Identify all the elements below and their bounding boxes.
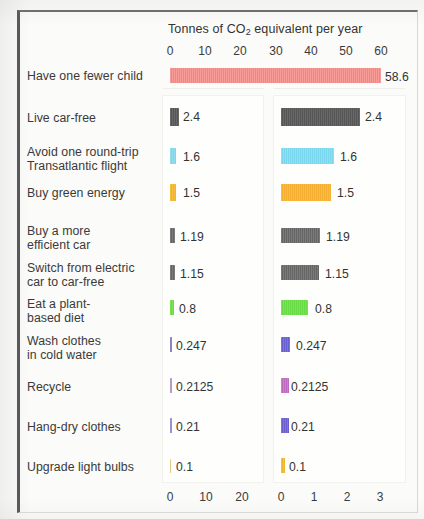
row-label-avoid-transatlantic-flight: Avoid one round-trip Transatlantic fligh… <box>27 146 159 173</box>
bar-wash-clothes-left-panel <box>170 337 172 352</box>
main-axis-tick-10: 10 <box>198 44 211 58</box>
axis-title-post: equivalent per year <box>251 22 363 36</box>
right-panel-tick-1: 1 <box>311 490 318 504</box>
panel-connector-right <box>274 88 405 89</box>
bar-value-avoid-flight-left: 1.6 <box>183 150 200 164</box>
main-axis-tick-20: 20 <box>233 44 246 58</box>
bar-recycle-right-panel <box>281 378 289 393</box>
bar-buy-efficient-car-left-panel <box>170 228 175 243</box>
bar-value-hang-dry-right: 0.21 <box>291 420 315 434</box>
bar-value-wash-clothes-left: 0.247 <box>176 339 207 353</box>
bar-value-eat-plant-based-left: 0.8 <box>179 302 196 316</box>
bar-upgrade-light-bulbs-right-panel <box>281 458 285 473</box>
right-panel-tick-2: 2 <box>344 490 351 504</box>
bar-hang-dry-clothes-right-panel <box>281 418 289 433</box>
panel-connector-left <box>163 88 264 89</box>
right-panel-tick-0: 0 <box>278 490 285 504</box>
row-label-switch-electric-to-car-free: Switch from electric car to car-free <box>27 262 159 289</box>
bar-avoid-transatlantic-flight-right-panel <box>281 148 334 164</box>
chart-axis-title: Tonnes of CO2 equivalent per year <box>168 22 363 37</box>
bar-eat-plant-based-diet-right-panel <box>281 300 308 315</box>
bar-value-buy-green-energy-right: 1.5 <box>337 186 354 200</box>
bar-value-buy-green-energy-left: 1.5 <box>183 186 200 200</box>
bar-wash-clothes-right-panel <box>281 337 290 352</box>
row-label-eat-plant-based-diet: Eat a plant- based diet <box>27 298 159 325</box>
left-panel-tick-0: 0 <box>167 490 174 504</box>
bar-value-hang-dry-left: 0.21 <box>176 420 200 434</box>
main-axis-tick-40: 40 <box>304 44 317 58</box>
bar-hang-dry-clothes-left-panel <box>170 418 172 433</box>
bar-value-eat-plant-based-right: 0.8 <box>315 302 332 316</box>
bar-buy-green-energy-right-panel <box>281 184 331 201</box>
row-label-have-one-fewer-child: Have one fewer child <box>27 70 159 84</box>
bar-switch-electric-to-car-free-right-panel <box>281 265 319 280</box>
bar-recycle-left-panel <box>170 378 172 393</box>
row-label-buy-efficient-car: Buy a more efficient car <box>27 225 159 252</box>
bar-switch-electric-to-car-free-left-panel <box>170 265 175 280</box>
row-label-recycle: Recycle <box>27 381 159 395</box>
bar-value-switch-electric-left: 1.15 <box>180 267 204 281</box>
bar-value-upgrade-bulbs-right: 0.1 <box>289 460 306 474</box>
figure-page: Tonnes of CO2 equivalent per year 0 10 2… <box>0 0 424 519</box>
row-label-live-car-free: Live car-free <box>27 112 159 126</box>
bar-upgrade-light-bulbs-left-panel <box>170 459 171 473</box>
bar-value-switch-electric-right: 1.15 <box>325 267 349 281</box>
bar-value-recycle-right: 0.2125 <box>291 380 328 394</box>
bar-value-have-one-fewer-child-main: 58.6 <box>385 70 409 84</box>
row-label-hang-dry-clothes: Hang-dry clothes <box>27 421 159 435</box>
left-panel-tick-10: 10 <box>199 490 212 504</box>
bar-value-live-car-free-right: 2.4 <box>365 110 382 124</box>
chart-plot-area: Tonnes of CO2 equivalent per year 0 10 2… <box>0 0 424 519</box>
bar-have-one-fewer-child-main <box>170 68 381 83</box>
row-label-wash-clothes-cold-water: Wash clothes in cold water <box>27 335 159 362</box>
bar-buy-green-energy-left-panel <box>170 184 176 201</box>
bar-value-buy-efficient-car-left: 1.19 <box>180 230 204 244</box>
bar-value-avoid-flight-right: 1.6 <box>340 150 357 164</box>
bar-eat-plant-based-diet-left-panel <box>170 300 174 315</box>
bar-live-car-free-left-panel <box>170 108 179 126</box>
bar-buy-efficient-car-right-panel <box>281 228 320 243</box>
main-axis-tick-0: 0 <box>167 44 174 58</box>
bar-value-upgrade-bulbs-left: 0.1 <box>176 460 193 474</box>
row-label-buy-green-energy: Buy green energy <box>27 187 159 201</box>
bar-value-live-car-free-left: 2.4 <box>183 110 200 124</box>
bar-value-buy-efficient-car-right: 1.19 <box>326 230 350 244</box>
left-panel-tick-20: 20 <box>235 490 248 504</box>
bar-value-recycle-left: 0.2125 <box>176 380 213 394</box>
row-label-upgrade-light-bulbs: Upgrade light bulbs <box>27 461 159 475</box>
bar-live-car-free-right-panel <box>281 108 360 126</box>
main-axis-tick-60: 60 <box>374 44 387 58</box>
bar-value-wash-clothes-right: 0.247 <box>296 339 327 353</box>
right-panel-tick-3: 3 <box>377 490 384 504</box>
main-axis-tick-30: 30 <box>269 44 282 58</box>
bar-avoid-transatlantic-flight-left-panel <box>170 148 176 164</box>
main-x-axis: 0 10 20 30 40 50 60 <box>0 44 424 60</box>
axis-title-pre: Tonnes of CO <box>168 22 246 36</box>
main-axis-tick-50: 50 <box>339 44 352 58</box>
